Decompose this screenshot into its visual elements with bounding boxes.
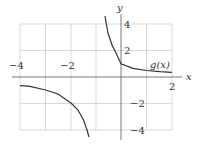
left-branch (20, 86, 89, 137)
function-label: g(x) (150, 59, 170, 70)
axes (12, 14, 182, 140)
y-axis-label: y (116, 2, 123, 13)
x-tick-2: 2 (169, 81, 175, 92)
x-tick-neg2: −2 (60, 60, 75, 71)
y-tick-neg2: −2 (130, 98, 145, 109)
x-axis-label: x (186, 71, 192, 82)
function-plot: y x g(x) −4 −2 2 4 2 −2 −4 (0, 0, 201, 151)
y-tick-2: 2 (124, 45, 130, 56)
x-tick-neg4: −4 (9, 60, 24, 71)
y-tick-neg4: −4 (130, 125, 145, 136)
y-tick-4: 4 (124, 19, 130, 30)
